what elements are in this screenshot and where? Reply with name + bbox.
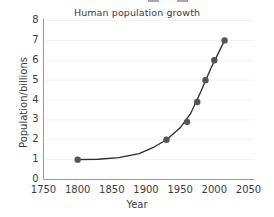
data-point: [221, 37, 227, 43]
y-tick-label: 0: [23, 173, 39, 184]
data-point: [194, 99, 200, 105]
data-point: [211, 57, 217, 63]
y-tick-label: 8: [23, 14, 39, 25]
x-tick-label: 1950: [163, 184, 197, 195]
x-axis-title: Year: [0, 199, 274, 210]
data-point: [202, 77, 208, 83]
x-tick-label: 1750: [27, 184, 61, 195]
x-tick-label: 1800: [61, 184, 95, 195]
data-point: [184, 119, 190, 125]
x-tick-label: 2000: [197, 184, 231, 195]
data-point: [74, 156, 80, 162]
y-axis-title: Population/billions: [18, 33, 29, 173]
x-tick-label: 1850: [95, 184, 129, 195]
x-tick-label: 1900: [129, 184, 163, 195]
chart-figure: Human population growth 012345678 175018…: [0, 0, 274, 217]
data-point: [163, 137, 169, 143]
x-tick-label: 2050: [232, 184, 266, 195]
